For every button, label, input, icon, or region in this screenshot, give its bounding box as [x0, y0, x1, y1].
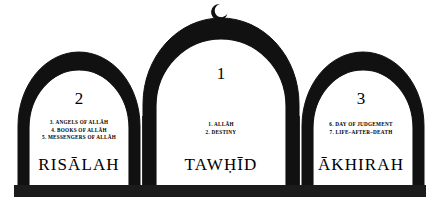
dome-tawhid: [143, 18, 299, 186]
dome-akhirah: [302, 52, 424, 186]
risalah-dome-inner: [29, 70, 129, 186]
dome-risalah: [18, 52, 140, 186]
divider-left: [142, 116, 144, 186]
foundation-bar: [14, 185, 426, 197]
crescent-shape: [211, 4, 227, 20]
akhirah-dome-inner: [313, 70, 413, 186]
domes-illustration: [0, 0, 442, 201]
tawhid-dome-inner: [156, 39, 286, 186]
islamic-faith-pillars-diagram: 2 3. ANGELS OF ALLĀH 4. BOOKS OF ALLĀH 5…: [0, 0, 442, 201]
divider-right: [298, 116, 300, 186]
